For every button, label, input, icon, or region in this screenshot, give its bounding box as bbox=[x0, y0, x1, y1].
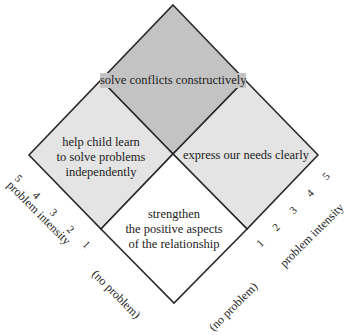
region-left-line-2: to solve problems bbox=[40, 150, 162, 165]
region-left-line-1: help child learn bbox=[40, 135, 162, 150]
region-top-label: solve conflicts constructively bbox=[100, 73, 246, 88]
region-left-label: help child learn to solve problems indep… bbox=[40, 135, 162, 180]
region-bottom-label: strengthen the positive aspects of the r… bbox=[110, 207, 238, 252]
region-right-label: express our needs clearly bbox=[180, 148, 312, 163]
region-bottom-line-3: of the relationship bbox=[110, 237, 238, 252]
region-bottom-line-2: the positive aspects bbox=[110, 222, 238, 237]
region-bottom-line-1: strengthen bbox=[110, 207, 238, 222]
region-left-line-3: independently bbox=[40, 165, 162, 180]
